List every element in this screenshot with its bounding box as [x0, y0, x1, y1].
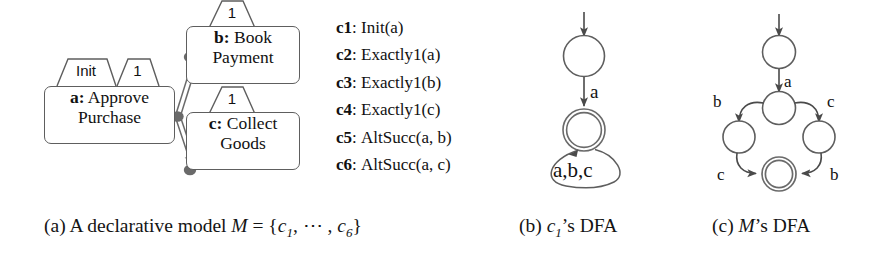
activity-c-tab-one-label: 1	[207, 91, 257, 106]
caption-c-tag: (c)	[712, 215, 734, 236]
activity-b-tab-one-label: 1	[207, 5, 257, 20]
panel-m-dfa: a b c c b	[680, 0, 879, 196]
constraint-id: c1	[336, 18, 352, 37]
dfa-c1-state-q0[interactable]	[564, 36, 605, 77]
dfa-m-edge-s3-s4	[802, 153, 821, 174]
dfa-m-edge-label-b-left: b	[713, 92, 722, 111]
figure-captions: (a) A declarative model M = {c1, ⋯ , c6}…	[0, 200, 879, 256]
constraint-sep: :	[352, 73, 357, 92]
activity-node-b[interactable]: b: Book Payment	[186, 26, 300, 84]
activity-a-line1: a: Approve	[45, 88, 174, 108]
dfa-m-state-s1[interactable]	[763, 92, 796, 125]
caption-a-eq: = {	[248, 215, 278, 236]
caption-c: (c) M’s DFA	[712, 216, 810, 236]
activity-c-line1: c: Collect	[187, 114, 299, 134]
constraint-list: c1: Init(a) c2: Exactly1(a) c3: Exactly1…	[336, 14, 486, 178]
panel-declarative-model: Init 1 1 1 a: Approve Purchase b: B	[0, 0, 480, 196]
activity-c-id: c:	[209, 113, 223, 133]
dfa-m-edge-label-b-bottom: b	[830, 165, 839, 184]
constraint-sep: :	[352, 155, 357, 174]
constraint-text: AltSucc(a, b)	[361, 128, 452, 147]
dfa-m-graph: a b c c b	[680, 0, 879, 196]
dfa-m-edge-label-c-right: c	[827, 92, 835, 111]
caption-a-tag: (a)	[44, 215, 66, 236]
constraint-item: c2: Exactly1(a)	[336, 41, 486, 68]
dfa-m-edge-label-c-bottom: c	[717, 165, 725, 184]
dfa-m-state-s2[interactable]	[723, 121, 755, 153]
caption-a-c-last: c	[337, 215, 346, 236]
constraint-text: Init(a)	[361, 18, 403, 37]
caption-a-close: }	[352, 215, 361, 236]
constraint-id: c3	[336, 73, 352, 92]
constraint-text: Exactly1(a)	[361, 45, 440, 64]
dfa-c1-graph: a a,b,c	[490, 0, 680, 196]
caption-c-model: M	[739, 215, 755, 236]
dfa-c1-self-loop-label: a,b,c	[553, 158, 593, 182]
dfa-c1-edge-label-a: a	[590, 81, 599, 102]
caption-b-rest: ’s DFA	[562, 215, 617, 236]
caption-a-dots: , ⋯ ,	[293, 215, 337, 236]
constraint-id: c6	[336, 155, 352, 174]
activity-a-name-2: Purchase	[45, 108, 174, 128]
activity-a-id: a:	[70, 87, 85, 107]
dfa-m-state-s3[interactable]	[803, 121, 835, 153]
activity-b-tab-one: 1	[207, 0, 257, 29]
activity-a-tab-one: 1	[115, 57, 160, 87]
caption-a-text: A declarative model	[66, 215, 232, 236]
activity-node-a[interactable]: a: Approve Purchase	[44, 86, 175, 144]
constraint-text: Exactly1(b)	[361, 73, 441, 92]
dfa-m-edge-label-a: a	[784, 72, 792, 91]
activity-a-tab-init-label: Init	[55, 63, 117, 78]
constraint-sep: :	[352, 18, 357, 37]
caption-b-tag: (b)	[519, 215, 542, 236]
activity-b-line1: b: Book	[187, 28, 299, 48]
constraint-sep: :	[352, 100, 357, 119]
dfa-m-edge-s1-s2	[739, 102, 764, 122]
constraint-item: c6: AltSucc(a, c)	[336, 151, 486, 178]
constraint-sep: :	[352, 128, 357, 147]
dfa-m-state-s4-inner	[765, 160, 792, 187]
dfa-m-edge-s1-s3	[795, 102, 820, 122]
constraint-text: Exactly1(c)	[361, 100, 440, 119]
caption-b: (b) c1’s DFA	[519, 216, 617, 239]
dfa-m-edge-s2-s4	[737, 153, 756, 174]
activity-a-tab-init: Init	[55, 57, 117, 87]
constraint-text: AltSucc(a, c)	[361, 155, 451, 174]
activity-b-id: b:	[214, 27, 230, 47]
constraint-item: c3: Exactly1(b)	[336, 69, 486, 96]
caption-a-model: M	[231, 215, 247, 236]
caption-c-rest: ’s DFA	[755, 215, 810, 236]
dfa-c1-state-q1-inner	[567, 113, 602, 148]
constraint-item: c5: AltSucc(a, b)	[336, 124, 486, 151]
constraint-sep: :	[352, 45, 357, 64]
activity-node-c[interactable]: c: Collect Goods	[186, 112, 300, 170]
caption-a: (a) A declarative model M = {c1, ⋯ , c6}	[44, 216, 362, 239]
constraint-id: c2	[336, 45, 352, 64]
figure-container: Init 1 1 1 a: Approve Purchase b: B	[0, 0, 879, 256]
activity-a-name-1: Approve	[84, 87, 149, 107]
constraint-item: c1: Init(a)	[336, 14, 486, 41]
constraint-item: c4: Exactly1(c)	[336, 96, 486, 123]
activity-c-name-2: Goods	[187, 134, 299, 154]
dfa-m-state-s0[interactable]	[763, 36, 796, 69]
activity-c-name-1: Collect	[222, 113, 277, 133]
constraint-id: c4	[336, 100, 352, 119]
activity-a-tab-one-label: 1	[115, 63, 160, 78]
caption-b-c: c	[547, 215, 556, 236]
activity-b-name-1: Book	[230, 27, 272, 47]
panel-c1-dfa: a a,b,c	[490, 0, 680, 196]
activity-b-name-2: Payment	[187, 48, 299, 68]
constraint-id: c5	[336, 128, 352, 147]
activity-c-tab-one: 1	[207, 85, 257, 115]
